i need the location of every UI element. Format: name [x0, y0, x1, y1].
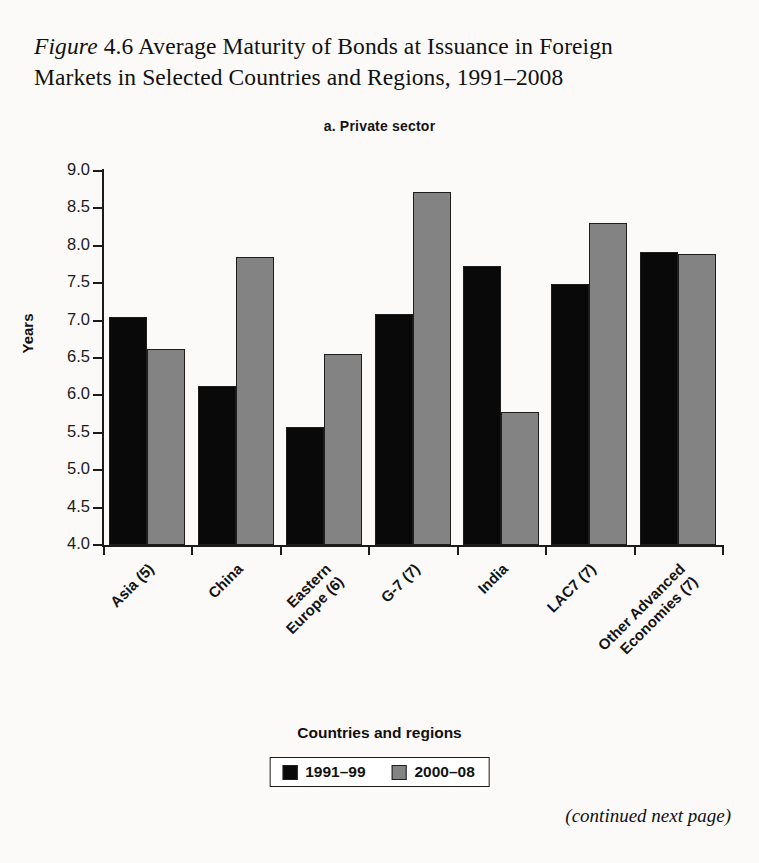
- y-axis-tick: [93, 544, 103, 546]
- y-axis-tick: [93, 432, 103, 434]
- bar-series2: [236, 257, 274, 545]
- legend-label: 2000–08: [415, 763, 475, 781]
- x-axis-tick: [457, 545, 459, 555]
- y-axis-tick-label: 7.5: [44, 272, 90, 291]
- legend-swatch-icon: [282, 765, 297, 780]
- legend-label: 1991–99: [305, 763, 365, 781]
- y-axis-tick: [93, 282, 103, 284]
- bar-series1: [286, 427, 324, 545]
- x-axis-tick: [280, 545, 282, 555]
- y-axis-tick-label: 9.0: [44, 160, 90, 179]
- bar-series1: [551, 284, 589, 545]
- y-axis-tick-label: 6.5: [44, 347, 90, 366]
- y-axis-tick-label: 8.0: [44, 235, 90, 254]
- y-axis-tick: [93, 469, 103, 471]
- bar-series1: [375, 314, 413, 545]
- x-axis-line: [102, 545, 723, 547]
- bar-series2: [501, 412, 539, 545]
- y-axis-tick: [93, 394, 103, 396]
- y-axis-title: Years: [19, 324, 36, 354]
- legend-swatch-icon: [392, 765, 407, 780]
- y-axis-tick-label: 4.5: [44, 497, 90, 516]
- y-axis-tick-label: 7.0: [44, 310, 90, 329]
- bar-series1: [198, 386, 236, 545]
- y-axis-tick: [93, 320, 103, 322]
- y-axis-tick: [93, 245, 103, 247]
- bar-series2: [147, 349, 185, 545]
- y-axis-tick-label: 4.0: [44, 534, 90, 553]
- bar-series2: [324, 354, 362, 545]
- y-axis-tick: [93, 170, 103, 172]
- chart-legend: 1991–992000–08: [269, 757, 490, 787]
- y-axis-tick: [93, 207, 103, 209]
- y-axis-tick-label: 5.0: [44, 459, 90, 478]
- x-axis-tick: [722, 545, 724, 555]
- x-axis-tick: [545, 545, 547, 555]
- bar-series1: [640, 252, 678, 545]
- continued-note: (continued next page): [565, 805, 731, 827]
- y-axis-tick: [93, 507, 103, 509]
- y-axis-tick-label: 8.5: [44, 197, 90, 216]
- x-axis-tick: [368, 545, 370, 555]
- legend-entry: 2000–08: [392, 763, 475, 781]
- bar-series2: [589, 223, 627, 545]
- x-axis-title: Countries and regions: [0, 724, 759, 742]
- bar-series1: [109, 317, 147, 545]
- bar-series1: [463, 266, 501, 545]
- y-axis-tick-label: 6.0: [44, 384, 90, 403]
- y-axis-tick-label: 5.5: [44, 422, 90, 441]
- x-axis-tick: [634, 545, 636, 555]
- legend-entry: 1991–99: [282, 763, 365, 781]
- x-axis-tick: [191, 545, 193, 555]
- y-axis-tick: [93, 357, 103, 359]
- x-axis-tick: [103, 545, 105, 555]
- bar-series2: [413, 192, 451, 545]
- bar-series2: [678, 254, 716, 545]
